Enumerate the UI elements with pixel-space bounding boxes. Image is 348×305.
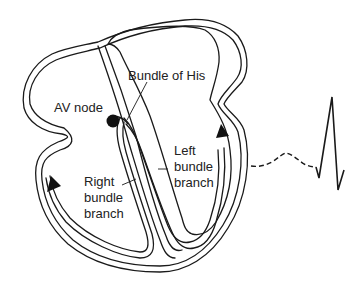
left-bundle-label-3: branch: [174, 175, 214, 190]
left-ventricle-inner: [108, 26, 231, 234]
av-node-label: AV node: [54, 100, 103, 115]
av-node-dot: [107, 115, 120, 128]
right-arrow-icon: [47, 176, 61, 192]
bundle-of-his-label: Bundle of His: [128, 68, 206, 83]
ecg-qrs-complex: [316, 97, 344, 190]
left-bundle-label-1: Left: [174, 143, 196, 158]
left-arrow-icon: [216, 124, 229, 138]
right-bundle-label-2: bundle: [84, 190, 123, 205]
heart-outer-wall: [23, 20, 247, 272]
right-bundle-label-3: branch: [84, 206, 124, 221]
heart-diagram: AV node Bundle of His Left bundle branch…: [0, 0, 348, 305]
ecg-p-wave: [251, 153, 316, 167]
right-bundle-label-1: Right: [84, 174, 115, 189]
left-bundle-label-2: bundle: [174, 159, 213, 174]
